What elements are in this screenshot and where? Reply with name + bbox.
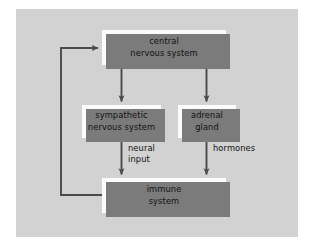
node-adrenal-gland[interactable]: adrenal gland [178, 105, 236, 138]
node-label: immune system [144, 184, 185, 207]
node-label: central nervous system [127, 36, 200, 59]
node-central-nervous-system[interactable]: central nervous system [102, 30, 226, 65]
node-immune-system[interactable]: immune system [102, 178, 226, 213]
edge-label-hormones: hormones [213, 143, 255, 154]
node-sympathetic-nervous-system[interactable]: sympathetic nervous system [82, 105, 161, 138]
node-label: sympathetic nervous system [85, 110, 158, 133]
diagram-figure: central nervous system sympathetic nervo… [0, 0, 317, 252]
node-label: adrenal gland [188, 110, 226, 133]
edge-label-neural-input: neural input [128, 143, 155, 166]
